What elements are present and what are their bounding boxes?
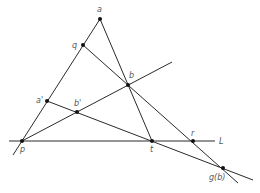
label-b: b — [129, 71, 134, 80]
label-line-L: L — [219, 137, 223, 146]
point-b — [126, 83, 130, 87]
label-b_prime: b' — [74, 99, 81, 108]
line-a-p — [13, 19, 100, 155]
line-q-b-r-gb — [83, 45, 238, 183]
point-a_prime — [45, 99, 49, 103]
point-p — [20, 139, 24, 143]
label-layer: aqba'b'ptrg(b)L — [19, 5, 225, 182]
point-layer — [20, 17, 225, 170]
point-b_prime — [75, 110, 79, 114]
label-a_prime: a' — [36, 96, 43, 105]
label-g_b: g(b) — [209, 173, 225, 182]
line-p-bp-b — [22, 62, 172, 141]
label-p: p — [19, 145, 25, 154]
point-g_b — [221, 166, 225, 170]
label-t: t — [150, 145, 154, 154]
line-a-t — [100, 19, 152, 141]
label-q: q — [72, 41, 77, 50]
label-a: a — [97, 5, 102, 14]
point-q — [81, 43, 85, 47]
geometry-diagram: aqba'b'ptrg(b)L — [0, 0, 260, 193]
label-r: r — [191, 129, 195, 138]
point-a — [98, 17, 102, 21]
point-t — [150, 139, 154, 143]
point-r — [191, 139, 195, 143]
